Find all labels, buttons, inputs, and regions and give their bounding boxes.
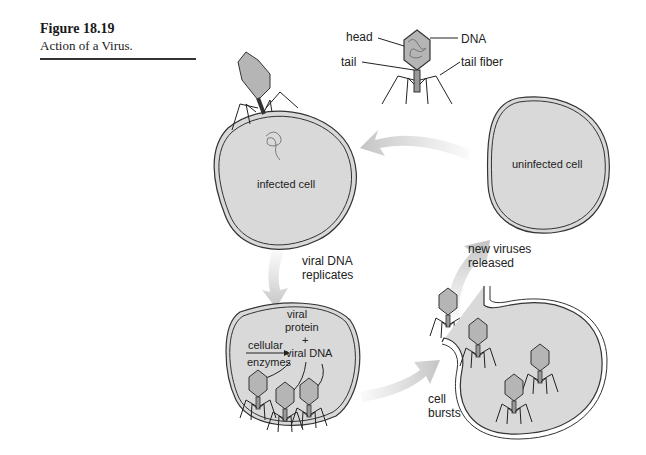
- label-head: head: [346, 30, 373, 44]
- assembly-cell: viral protein + viral DNA cellular enzym…: [226, 303, 360, 432]
- label-protein: protein: [285, 321, 319, 333]
- burst-cell: [442, 286, 607, 439]
- label-uninfected-cell: uninfected cell: [512, 158, 582, 170]
- arrow-down-icon: [262, 250, 288, 308]
- label-viral-dna-assembly: viral DNA: [286, 347, 333, 359]
- label-released: released: [468, 256, 514, 270]
- virus-cycle-diagram: head DNA tail tail fiber infected cell u…: [0, 0, 646, 455]
- virus-anatomy-diagram: head DNA tail tail fiber: [341, 30, 503, 104]
- label-bursts: bursts: [428, 406, 461, 420]
- label-new-viruses: new viruses: [468, 242, 531, 256]
- label-tail: tail: [341, 55, 356, 69]
- label-infected-cell: infected cell: [257, 178, 315, 190]
- label-viral-dna: viral DNA: [302, 254, 353, 268]
- uninfected-cell: uninfected cell: [487, 97, 609, 233]
- label-enzymes: enzymes: [247, 356, 292, 368]
- infected-cell: infected cell: [214, 52, 356, 249]
- label-cellular: cellular: [248, 339, 283, 351]
- label-viral: viral: [287, 308, 307, 320]
- label-cell: cell: [428, 392, 446, 406]
- label-replicates: replicates: [302, 268, 353, 282]
- arrow-left-icon: [360, 130, 470, 160]
- label-tail-fiber: tail fiber: [461, 55, 503, 69]
- label-dna: DNA: [461, 32, 486, 46]
- label-plus: +: [302, 334, 308, 346]
